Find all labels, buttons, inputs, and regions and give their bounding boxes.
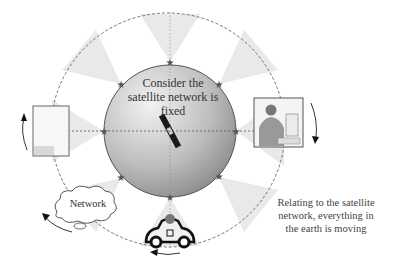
network-label: Network bbox=[58, 198, 118, 210]
caption-line: Consider the bbox=[118, 77, 228, 91]
person-at-computer-image bbox=[254, 98, 303, 147]
moving-earth-caption: Relating to the satellite network, every… bbox=[262, 196, 390, 235]
satellite-star-icon: ★ bbox=[117, 172, 126, 183]
left-ground-object bbox=[33, 106, 69, 156]
caption-line: the earth is moving bbox=[262, 222, 390, 235]
caption-line: network, everything in bbox=[262, 209, 390, 222]
rotation-arrow-up-icon bbox=[23, 118, 27, 150]
satellite-star-icon: ★ bbox=[215, 171, 224, 182]
fixed-network-caption: Consider the satellite network is fixed bbox=[118, 77, 228, 118]
satellite-star-icon: ★ bbox=[166, 57, 175, 68]
satellite-star-icon: ★ bbox=[232, 126, 241, 137]
car-image bbox=[146, 214, 194, 247]
caption-line: Relating to the satellite bbox=[262, 196, 390, 209]
caption-line: fixed bbox=[118, 105, 228, 119]
rotation-arrow-bottom-icon bbox=[156, 253, 180, 255]
caption-line: satellite network is bbox=[118, 91, 228, 105]
satellite-star-icon: ★ bbox=[166, 192, 175, 203]
rotation-arrow-down-icon bbox=[311, 103, 316, 138]
satellite-star-icon: ★ bbox=[100, 126, 109, 137]
